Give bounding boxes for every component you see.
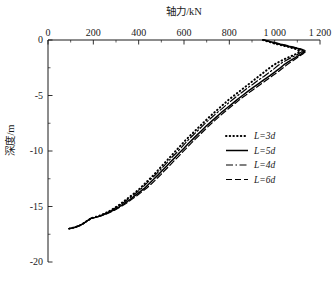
x-tick-label-800: 800: [222, 27, 237, 38]
x-tick-label-200: 200: [86, 27, 101, 38]
legend: L=3dL=5dL=4dL=6d: [226, 131, 275, 185]
legend-label-l5d: L=5d: [253, 146, 275, 156]
y-tick-label--10: -10: [30, 145, 43, 156]
y-axis-ticks: [48, 40, 53, 262]
x-axis-tick-labels: 02004006008001 0001 200: [46, 27, 332, 38]
figure-container: 轴力/kN 深度/m 02004006008001 0001 200 0-5-1…: [0, 0, 335, 283]
y-tick-label-0: 0: [38, 34, 43, 45]
y-tick-label--15: -15: [30, 201, 43, 212]
x-tick-label-1000: 1 000: [263, 27, 286, 38]
x-tick-label-400: 400: [131, 27, 146, 38]
y-axis-tick-labels: 0-5-10-15-20: [30, 34, 43, 267]
legend-label-l4d: L=4d: [253, 160, 275, 170]
legend-label-l6d: L=6d: [253, 175, 275, 185]
legend-label-l3d: L=3d: [253, 131, 275, 141]
y-tick-label--20: -20: [30, 256, 43, 267]
x-tick-label-1200: 1 200: [309, 27, 332, 38]
x-tick-label-600: 600: [177, 27, 192, 38]
y-axis-title: 深度/m: [4, 124, 16, 155]
y-tick-label--5: -5: [35, 90, 43, 101]
x-tick-label-0: 0: [46, 27, 51, 38]
x-axis-title: 轴力/kN: [166, 5, 202, 17]
axial-force-depth-chart: 轴力/kN 深度/m 02004006008001 0001 200 0-5-1…: [0, 0, 335, 283]
